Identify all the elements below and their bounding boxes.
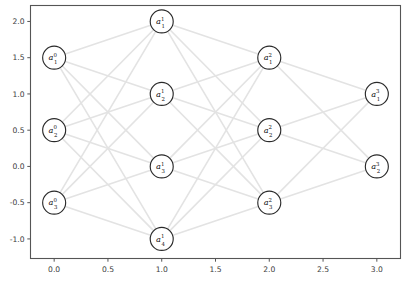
neural-network-figure: 0.00.51.01.52.02.53.0 2.01.51.00.50.0-0.… (0, 0, 408, 285)
network-node: a32 (365, 155, 388, 178)
network-edge (162, 58, 270, 239)
network-node: a14 (150, 227, 173, 250)
network-edge (269, 166, 377, 202)
network-edge (54, 166, 162, 202)
network-node: a21 (258, 46, 281, 69)
network-node: a01 (43, 46, 66, 69)
network-node: a22 (258, 119, 281, 142)
x-tick-label: 1.5 (209, 265, 221, 274)
network-edge (162, 21, 270, 57)
y-tick-label: 0.5 (12, 126, 24, 135)
network-edge (162, 58, 270, 94)
network-edge (162, 58, 270, 167)
network-edge (269, 58, 377, 94)
network-node: a12 (150, 82, 173, 105)
y-tick-label: 2.0 (12, 17, 24, 26)
network-node: a13 (150, 155, 173, 178)
x-tick-label: 0.0 (48, 265, 60, 274)
x-tick-label: 2.5 (317, 265, 329, 274)
y-tick-label: 0.0 (12, 162, 24, 171)
y-tick-label: 1.0 (12, 90, 24, 99)
network-node: a02 (43, 119, 66, 142)
network-edge (162, 130, 270, 239)
network-edge (269, 94, 377, 130)
y-tick-label: -1.0 (10, 235, 25, 244)
network-node: a03 (43, 191, 66, 214)
node-layer: a01a02a03a11a12a13a14a21a22a23a31a32 (43, 10, 389, 250)
x-tick-label: 0.5 (102, 265, 114, 274)
x-tick-label: 3.0 (371, 265, 383, 274)
network-node: a11 (150, 10, 173, 33)
x-tick-label: 2.0 (263, 265, 275, 274)
network-edge (269, 94, 377, 203)
network-node: a23 (258, 191, 281, 214)
network-node: a31 (365, 82, 388, 105)
plot-canvas: 0.00.51.01.52.02.53.0 2.01.51.00.50.0-0.… (0, 0, 408, 285)
network-edge (54, 21, 162, 202)
y-axis-ticks: 2.01.51.00.50.0-0.5-1.0 (10, 17, 31, 243)
y-tick-label: -0.5 (10, 198, 25, 207)
y-tick-label: 1.5 (12, 53, 24, 62)
network-edge (54, 21, 162, 130)
edge-layer (54, 21, 377, 238)
network-edge (54, 21, 162, 57)
x-axis-ticks: 0.00.51.01.52.02.53.0 (48, 259, 383, 274)
network-edge (162, 203, 270, 239)
network-edge (54, 94, 162, 203)
x-tick-label: 1.0 (156, 265, 168, 274)
network-edge (54, 203, 162, 239)
